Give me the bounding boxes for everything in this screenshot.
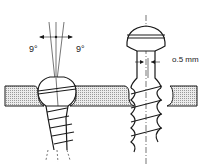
bone-plate bbox=[5, 86, 197, 106]
left-screw bbox=[38, 22, 76, 162]
angle-label-left: 9° bbox=[29, 45, 38, 54]
screw-angle-diagram bbox=[0, 0, 209, 168]
right-screw bbox=[127, 15, 165, 166]
angle-label-right: 9° bbox=[76, 45, 85, 54]
clearance-label: o.5 mm bbox=[172, 56, 199, 64]
